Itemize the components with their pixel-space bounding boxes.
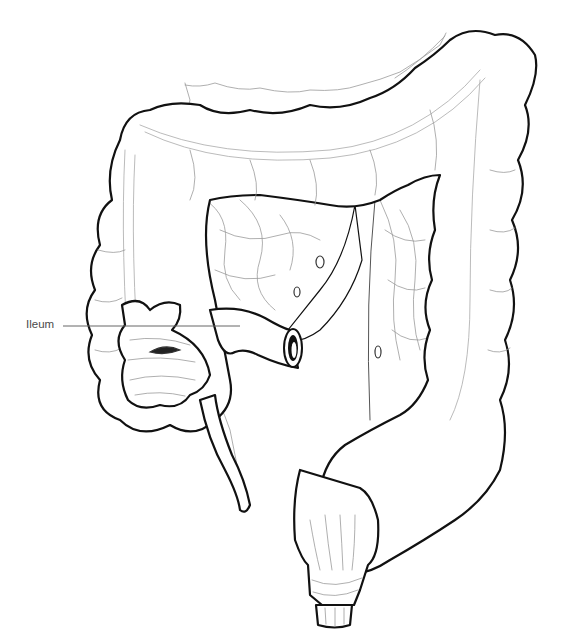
colon-illustration xyxy=(0,0,571,634)
anal-canal xyxy=(316,605,352,628)
vessel-opening xyxy=(316,256,324,268)
vessel-opening xyxy=(294,287,300,297)
mesocolon-band xyxy=(280,205,362,341)
appendix xyxy=(200,395,250,512)
vessel-opening xyxy=(375,346,381,358)
ileum-label: Ileum xyxy=(26,319,54,331)
